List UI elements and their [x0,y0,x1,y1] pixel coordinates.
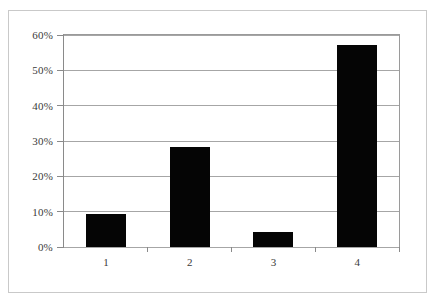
x-axis-label: 4 [354,256,360,268]
bar [86,214,126,247]
bar [337,45,377,247]
y-axis-label: 40% [32,100,53,112]
y-axis-tick [57,141,63,142]
y-axis-tick [57,70,63,71]
x-axis-label: 1 [103,256,109,268]
bar-chart-figure: 0%10%20%30%40%50%60% 1234 [0,0,437,305]
y-axis-label: 0% [38,241,53,253]
y-axis-label: 30% [32,135,53,147]
bar [170,147,210,247]
x-axis-label: 3 [271,256,277,268]
y-axis-label: 10% [32,206,53,218]
x-axis-tick [399,247,400,252]
y-axis-label: 20% [32,170,53,182]
y-axis-tick [57,105,63,106]
y-axis-label: 60% [32,29,53,41]
gridline [64,35,399,36]
y-axis-tick [57,176,63,177]
y-axis-tick [57,35,63,36]
x-axis-tick [315,247,316,252]
y-axis-label: 50% [32,64,53,76]
plot-area: 0%10%20%30%40%50%60% 1234 [63,34,400,248]
x-axis-tick [147,247,148,252]
y-axis-tick [57,247,63,248]
y-axis-tick [57,211,63,212]
x-axis-tick [231,247,232,252]
bar [253,232,293,247]
x-axis-label: 2 [187,256,193,268]
